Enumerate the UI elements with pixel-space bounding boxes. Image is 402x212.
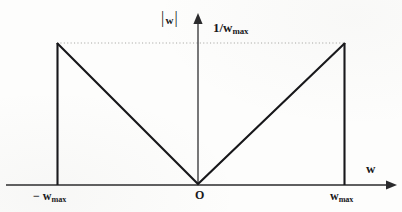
- y-axis-bar-close-glyph: |: [175, 9, 179, 26]
- left-limit-subscript: max: [52, 195, 67, 204]
- x-axis-arrowhead: [386, 180, 397, 189]
- right-limit-subscript: max: [339, 195, 354, 204]
- x-axis-label: w: [366, 162, 375, 175]
- y-axis-variable-label: w: [165, 14, 174, 26]
- magnitude-curve: [57, 43, 345, 184]
- peak-value-subscript: max: [233, 26, 249, 36]
- peak-value-label: 1/wmax: [213, 21, 248, 34]
- left-limit-label: − wmax: [33, 190, 66, 202]
- left-limit-text: − w: [33, 189, 52, 203]
- plot-svg: [0, 0, 402, 212]
- right-limit-label: wmax: [330, 190, 353, 202]
- right-limit-text: w: [330, 189, 339, 203]
- peak-value-numerator: 1/w: [213, 20, 233, 35]
- figure-container: |w| 1/wmax w O − wmax wmax: [0, 0, 402, 212]
- y-axis-label: |w|: [161, 10, 179, 26]
- y-axis-arrowhead: [193, 13, 202, 24]
- origin-label: O: [195, 189, 204, 201]
